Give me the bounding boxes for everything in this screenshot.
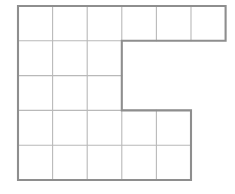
grid-cell xyxy=(18,110,53,145)
grid-cell xyxy=(87,6,122,41)
grid-cell xyxy=(122,110,157,145)
grid-cell xyxy=(156,110,191,145)
grid-cell xyxy=(87,76,122,111)
grid-cell xyxy=(53,41,88,76)
grid-cell xyxy=(156,6,191,41)
grid-cell xyxy=(18,41,53,76)
grid-cell xyxy=(53,76,88,111)
grid-cell xyxy=(18,6,53,41)
grid-cell xyxy=(53,110,88,145)
grid-cell xyxy=(53,6,88,41)
grid-cell xyxy=(122,6,157,41)
grid-cell xyxy=(156,145,191,180)
grid-cell xyxy=(87,145,122,180)
grid-diagram xyxy=(0,0,235,194)
grid-cell xyxy=(87,41,122,76)
grid-cell xyxy=(18,145,53,180)
grid-cell xyxy=(87,110,122,145)
grid-figure xyxy=(0,0,235,194)
grid-cell xyxy=(18,76,53,111)
grid-cell xyxy=(122,145,157,180)
grid-cell xyxy=(53,145,88,180)
grid-cell xyxy=(191,6,226,41)
